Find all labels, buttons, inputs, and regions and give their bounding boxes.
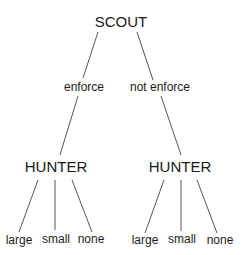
edge-notenforce-hunter-lower — [161, 96, 181, 155]
edge-left-hunter-none — [72, 180, 92, 232]
leaf-left-small: small — [42, 233, 70, 245]
edge-label-enforce: enforce — [64, 81, 104, 93]
node-hunter-left: HUNTER — [25, 159, 88, 174]
leaf-right-small: small — [168, 233, 196, 245]
leaf-right-none: none — [207, 234, 234, 246]
edge-left-hunter-large — [19, 180, 38, 232]
leaf-left-none: none — [78, 233, 105, 245]
edge-right-hunter-large — [145, 180, 164, 233]
tree-edges — [0, 0, 242, 255]
leaf-right-large: large — [132, 234, 159, 246]
node-hunter-right: HUNTER — [149, 159, 212, 174]
edge-enforce-hunter-lower — [60, 96, 78, 155]
edge-label-not-enforce: not enforce — [130, 81, 190, 93]
leaf-left-large: large — [6, 234, 33, 246]
edge-right-hunter-none — [197, 180, 217, 233]
edge-scout-enforce-upper — [83, 32, 98, 78]
edge-scout-notenforce-upper — [137, 32, 153, 80]
node-scout: SCOUT — [95, 14, 148, 29]
